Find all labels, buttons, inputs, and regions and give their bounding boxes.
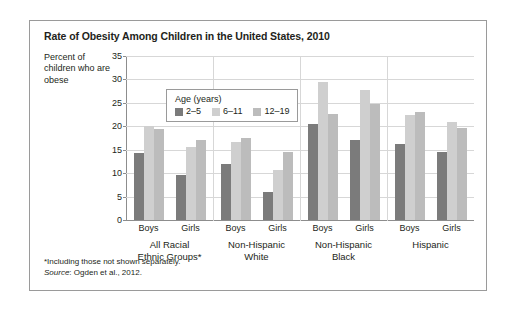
bar [273, 170, 283, 220]
source-line: Source: Ogden et al., 2012. [44, 268, 180, 279]
bar [221, 164, 231, 220]
bar [360, 90, 370, 220]
source-text: : Ogden et al., 2012. [69, 268, 142, 277]
bar [318, 82, 328, 220]
legend-items: 2–56–1112–19 [175, 107, 289, 116]
chart-title: Rate of Obesity Among Children in the Un… [44, 30, 330, 42]
group-label-line1: All Racial [138, 239, 202, 251]
x-axis-sub-label: Boys [225, 223, 245, 233]
y-axis-title: Percent of children who are obese [44, 52, 116, 86]
bar [395, 144, 405, 220]
bar [241, 138, 251, 220]
x-axis-group-label: Hispanic [412, 239, 448, 251]
group-divider [213, 56, 214, 221]
legend: Age (years) 2–56–1112–19 [166, 89, 298, 122]
y-axis-tick-mark [123, 150, 126, 151]
legend-label: 2–5 [186, 107, 201, 116]
y-axis-tick-label: 10 [112, 169, 122, 178]
x-axis-sub-label: Boys [399, 223, 419, 233]
legend-item: 12–19 [253, 107, 289, 116]
group-label-line2: Black [315, 251, 372, 263]
y-axis-tick-label: 15 [112, 145, 122, 154]
legend-label: 6–11 [223, 107, 242, 116]
bar [437, 152, 447, 220]
bar [263, 192, 273, 220]
y-axis-tick-label: 20 [112, 122, 122, 131]
bar [447, 122, 457, 220]
x-axis-group-label: Non-HispanicWhite [228, 239, 285, 262]
y-axis-tick-mark [123, 103, 126, 104]
figure-frame: Rate of Obesity Among Children in the Un… [29, 20, 487, 291]
y-axis-tick-mark [123, 220, 126, 221]
y-axis-tick-mark [123, 79, 126, 80]
x-axis-sub-label: Girls [268, 223, 287, 233]
bar [186, 147, 196, 220]
group-label-line1: Hispanic [412, 239, 448, 251]
bar [283, 152, 293, 220]
legend-item: 6–11 [212, 107, 242, 116]
group-divider [300, 56, 301, 221]
x-axis-group-label: Non-HispanicBlack [315, 239, 372, 262]
y-axis-tick-mark [123, 197, 126, 198]
footnotes: *Including those not shown separately. S… [44, 257, 180, 278]
legend-item: 2–5 [175, 107, 201, 116]
legend-label: 12–19 [264, 107, 289, 116]
legend-swatch-icon [253, 108, 261, 116]
x-axis-sub-label: Girls [355, 223, 374, 233]
plot-area: 05101520253035 [126, 56, 474, 221]
bar [350, 140, 360, 220]
y-axis-tick-label: 5 [117, 192, 122, 201]
y-axis-tick-mark [123, 173, 126, 174]
bar [370, 104, 380, 220]
group-label-line1: Non-Hispanic [315, 239, 372, 251]
bar [457, 128, 467, 220]
x-axis-sub-label: Girls [181, 223, 200, 233]
y-axis-tick-label: 0 [117, 216, 122, 225]
x-axis-sub-label: Boys [312, 223, 332, 233]
group-label-line1: Non-Hispanic [228, 239, 285, 251]
bar [176, 175, 186, 220]
group-label-line2: White [228, 251, 285, 263]
legend-title: Age (years) [175, 94, 289, 105]
bar [231, 142, 241, 220]
legend-swatch-icon [175, 108, 183, 116]
bar [196, 140, 206, 220]
footnote-text: *Including those not shown separately. [44, 257, 180, 268]
bar [144, 126, 154, 220]
y-axis-tick-label: 30 [112, 75, 122, 84]
x-axis-sub-label: Boys [138, 223, 158, 233]
x-axis-sub-label: Girls [442, 223, 461, 233]
bar [308, 124, 318, 220]
y-axis-tick-mark [123, 56, 126, 57]
bar [405, 115, 415, 220]
group-divider [387, 56, 388, 221]
y-axis-tick-label: 25 [112, 98, 122, 107]
legend-swatch-icon [212, 108, 220, 116]
y-axis-tick-label: 35 [112, 52, 122, 61]
bar [328, 114, 338, 220]
source-prefix: Source [44, 268, 69, 277]
bar [134, 153, 144, 220]
y-axis-tick-mark [123, 126, 126, 127]
bar [415, 112, 425, 220]
bar [154, 129, 164, 220]
